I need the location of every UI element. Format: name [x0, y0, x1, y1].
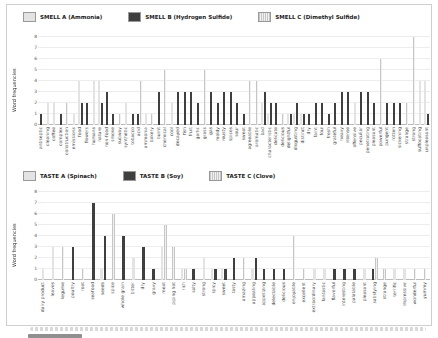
legend-label: SMELL C (Dimethyl Sulfide) [275, 14, 359, 20]
category-label: piping hot [171, 282, 176, 305]
bar-series-a [293, 114, 295, 125]
bar-series-b [321, 103, 323, 125]
bar-group [328, 114, 330, 125]
bar-group [363, 269, 366, 280]
bar-group [383, 269, 386, 280]
bar-group [334, 103, 336, 125]
bar-group [47, 103, 49, 125]
legend-item-taste-a: TASTE A (Spinach) [23, 171, 97, 181]
taste-c-swatch-icon [209, 171, 222, 181]
category-label: distinct [300, 127, 305, 144]
bar-series-c [66, 103, 68, 125]
bar-series-b [197, 103, 199, 125]
category-label: heavy [339, 127, 344, 141]
bars-row: dairy productleaveslegumepoultryrootseaf… [38, 192, 430, 280]
bar-group [424, 269, 427, 280]
legend-item-taste-c: TASTE C (Clove) [209, 171, 275, 181]
category-label: enjoyable [292, 282, 297, 304]
bar-series-b [81, 103, 83, 125]
category: pleasant [360, 192, 370, 280]
category: root [78, 192, 88, 280]
category-label: interesting [342, 282, 347, 306]
bar-series-b [427, 114, 429, 125]
bar-group [323, 269, 326, 280]
bar-series-c [140, 81, 142, 125]
category: tasty [229, 192, 239, 280]
bar-group [217, 103, 219, 125]
bar-series-a [47, 103, 49, 125]
category-label: subway [117, 127, 122, 144]
category: impressive [400, 192, 410, 280]
category-label: cleaning [46, 127, 51, 146]
y-tick-label: 3 [31, 245, 37, 250]
category-label: antiseptic [39, 127, 44, 149]
category-label: unpleasant [424, 127, 429, 152]
category-label: sickening [398, 127, 403, 148]
bar-series-a [53, 103, 55, 125]
category-label: seafood [91, 282, 96, 300]
bar-group [152, 269, 155, 280]
category-label: meat [161, 282, 166, 294]
bar-group [413, 37, 415, 125]
bar-series-c [164, 70, 166, 125]
smell-chart: 012345678antisepticcleaningcoffeecomplex… [38, 37, 430, 125]
bar-series-b [190, 92, 192, 125]
category-label: palatable [352, 282, 357, 303]
bar-series-b [112, 114, 114, 125]
bar-group [106, 92, 108, 125]
category: sweet [219, 192, 229, 280]
category: seafood [88, 192, 98, 280]
taste-chart: 012345678dairy productleaveslegumepoultr… [38, 192, 430, 280]
bar-series-b [315, 103, 317, 125]
bar-series-b [360, 92, 362, 125]
category-label: fantastic [322, 282, 327, 302]
category-label: impressive [402, 282, 407, 306]
category-label: amazing [242, 282, 247, 301]
bar-series-c [380, 59, 382, 125]
category-label: spice [111, 282, 116, 294]
category-label: tasty [232, 282, 237, 293]
bar-series-b [263, 269, 266, 280]
bar-series-a [73, 114, 75, 125]
bar-group [53, 103, 55, 125]
category: poultry [68, 192, 78, 280]
bar-series-b [255, 258, 258, 280]
bar-group [263, 269, 266, 280]
y-tick-label: 8 [31, 190, 37, 195]
bar-group [119, 114, 121, 125]
bar-group [347, 92, 349, 125]
bar-series-b [243, 114, 245, 125]
category-label: grateful [333, 127, 338, 145]
category-label: sweat [241, 127, 246, 140]
bar-series-b [104, 236, 107, 280]
category: palatable [349, 192, 359, 280]
category: delicious [279, 192, 289, 280]
bar-group [367, 92, 369, 125]
y-tick-label: 1 [31, 112, 37, 117]
y-tick-label: 1 [31, 267, 37, 272]
bar-series-b [341, 92, 343, 125]
bar-series-b [303, 114, 305, 125]
bar-series-b [101, 103, 103, 125]
bar-series-b [399, 103, 401, 125]
category: delectable [269, 192, 279, 280]
bar-group [177, 92, 179, 125]
bar-series-b [132, 114, 134, 125]
bar-group [403, 269, 406, 280]
bar-series-a [261, 103, 263, 125]
y-tick-label: 6 [31, 57, 37, 62]
bar-series-a [42, 269, 45, 280]
bar-group [308, 114, 310, 125]
category-label: moldy [215, 127, 220, 141]
category: terrific [390, 192, 400, 280]
bar-group [184, 92, 186, 125]
category-label: synthetic [124, 127, 129, 148]
bar-series-a [93, 81, 95, 125]
smell-legend: SMELL A (Ammonia) SMELL B (Hydrogen Sulf… [23, 12, 360, 22]
bar-series-b [217, 103, 219, 125]
category: yummy [420, 192, 430, 280]
bar-group [230, 92, 232, 125]
category-label: strange [405, 127, 410, 144]
category: seeds [98, 192, 108, 280]
bar-group [122, 236, 125, 280]
